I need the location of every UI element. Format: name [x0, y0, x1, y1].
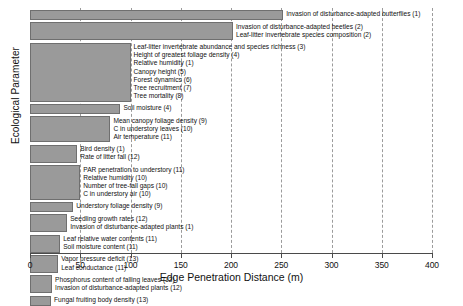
x-axis-title: Edge Penetration Distance (m)	[0, 271, 463, 283]
tick-label-400: 400	[425, 260, 439, 270]
tick-label-150: 150	[174, 260, 188, 270]
tick-200	[231, 253, 232, 258]
bar	[30, 165, 80, 199]
bar-label-group: Understory foliage density (9)	[76, 202, 162, 210]
bar-label-group: Invasion of disturbance-adapted butterfl…	[286, 10, 420, 18]
bar	[30, 10, 283, 20]
tick-400	[432, 253, 433, 258]
tick-350	[382, 253, 383, 258]
gridline-400	[432, 8, 433, 253]
bar-label-group: Leaf-litter invertebrate abundance and s…	[134, 43, 306, 100]
bar	[30, 296, 51, 306]
bar-label: Leaf-litter invertebrate abundance and s…	[134, 43, 306, 51]
bar-label: Seedling growth rates (12)	[70, 215, 193, 223]
bar-label: Understory foliage density (9)	[76, 202, 162, 210]
bar-label-group: Leaf relative water contents (11)Soil mo…	[63, 235, 157, 251]
tick-50	[80, 253, 81, 258]
tick-0	[30, 253, 31, 258]
bar-label: Tree recruitment (7)	[134, 84, 306, 92]
bar-label-group: Invasion of disturbance-adapted beetles …	[236, 23, 371, 39]
bar-label-group: Fungal fruiting body density (13)	[54, 296, 148, 304]
bar-label: Soil moisture content (11)	[63, 243, 157, 251]
bar-label: Relative humidity (10)	[83, 174, 184, 182]
tick-label-200: 200	[224, 260, 238, 270]
bar-label: Bird density (1)	[80, 145, 139, 153]
tick-100	[131, 253, 132, 258]
tick-label-100: 100	[123, 260, 137, 270]
bar-label: Leaf-litter invertebrate species composi…	[236, 31, 371, 39]
tick-label-350: 350	[375, 260, 389, 270]
bar-label: Tree mortality (8)	[134, 92, 306, 100]
bar-label: Leaf relative water contents (11)	[63, 235, 157, 243]
bar	[30, 214, 67, 232]
bar	[30, 202, 73, 212]
bar-label: Soil moisture (4)	[123, 104, 171, 112]
tick-label-50: 50	[76, 260, 85, 270]
bar-label: Rate of litter fall (12)	[80, 153, 139, 161]
bar-label: Invasion of disturbance-adapted plants (…	[70, 223, 193, 231]
tick-label-300: 300	[324, 260, 338, 270]
gridline-300	[332, 8, 333, 253]
bar-label: C in understory leaves (10)	[113, 125, 206, 133]
gridline-350	[382, 8, 383, 253]
bar-label: Invasion of disturbance-adapted beetles …	[236, 23, 371, 31]
bar	[30, 22, 233, 40]
tick-250	[281, 253, 282, 258]
tick-150	[181, 253, 182, 258]
bar-label-group: PAR penetration to understory (11)Relati…	[83, 166, 184, 199]
bar-label: Forest dynamics (6)	[134, 76, 306, 84]
bar-label: Number of tree-fall gaps (10)	[83, 182, 184, 190]
tick-label-0: 0	[28, 260, 33, 270]
bar-label: PAR penetration to understory (11)	[83, 166, 184, 174]
bar	[30, 145, 77, 163]
bar-label: Invasion of disturbance-adapted plants (…	[55, 284, 182, 292]
bar	[30, 104, 120, 114]
y-axis-title: Ecological Parameter	[10, 6, 21, 186]
bar-label: Mean canopy foliage density (9)	[113, 117, 206, 125]
bar-label: Air temperature (11)	[113, 133, 206, 141]
bar	[30, 43, 131, 102]
bar-label: Canopy height (5)	[134, 68, 306, 76]
bar-label-group: Bird density (1)Rate of litter fall (12)	[80, 145, 139, 161]
bar-label: C in understory air (10)	[83, 190, 184, 198]
tick-label-250: 250	[274, 260, 288, 270]
bar-label: Invasion of disturbance-adapted butterfl…	[286, 10, 420, 18]
bar-label-group: Mean canopy foliage density (9)C in unde…	[113, 117, 206, 142]
tick-300	[332, 253, 333, 258]
bar	[30, 116, 110, 142]
bar	[30, 235, 60, 253]
bar-label: Fungal fruiting body density (13)	[54, 296, 148, 304]
bar-label-group: Seedling growth rates (12)Invasion of di…	[70, 215, 193, 231]
bar-label-group: Soil moisture (4)	[123, 104, 171, 112]
bar-label: Height of greatest foliage density (4)	[134, 51, 306, 59]
bar-label: Relative humidity (1)	[134, 59, 306, 67]
plot-area: Invasion of disturbance-adapted butterfl…	[30, 8, 432, 253]
